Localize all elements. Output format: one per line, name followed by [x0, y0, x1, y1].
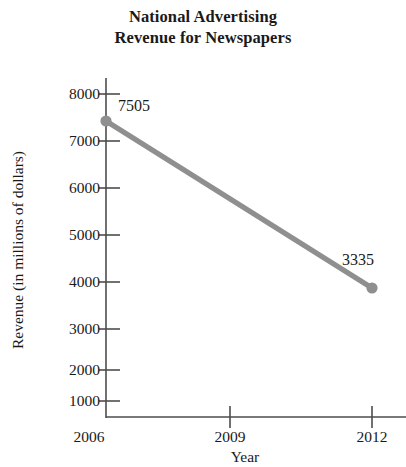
- x-tick-label-2006: 2006: [49, 429, 129, 445]
- x-axis-label: Year: [105, 449, 385, 465]
- x-tick-label-2009: 2009: [190, 429, 270, 445]
- y-axis-label-text: Revenue (in millions of dollars): [10, 151, 26, 349]
- y-axis-label: Revenue (in millions of dollars): [6, 100, 30, 400]
- data-label-2006: 7505: [118, 98, 150, 114]
- data-label-2012: 3335: [342, 252, 374, 268]
- x-tick-labels: 2006 2009 2012: [0, 0, 406, 467]
- x-tick-label-2012: 2012: [332, 429, 406, 445]
- chart-figure: National Advertising Revenue for Newspap…: [0, 0, 406, 467]
- x-axis-label-text: Year: [231, 448, 260, 465]
